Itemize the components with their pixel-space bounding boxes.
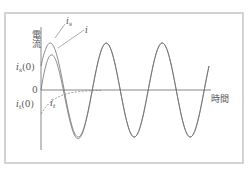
- i-s-initial-label: is(0): [16, 62, 35, 73]
- i-s-label: is: [66, 16, 72, 27]
- origin-label: 0: [32, 85, 38, 95]
- i-leader-line: [58, 30, 84, 48]
- y-axis-label: 電流: [31, 30, 41, 49]
- x-axis-label: 時間: [211, 94, 229, 104]
- i-label: i: [85, 25, 88, 35]
- i-t-label: it: [50, 98, 56, 109]
- total-current-curve: [41, 43, 209, 139]
- i-t-initial-label: it(0): [16, 99, 34, 110]
- i-s-leader-line: [55, 24, 65, 38]
- circuit-transient-diagram: 電流 is i is(0) 0 it(0) it 時間: [0, 0, 250, 176]
